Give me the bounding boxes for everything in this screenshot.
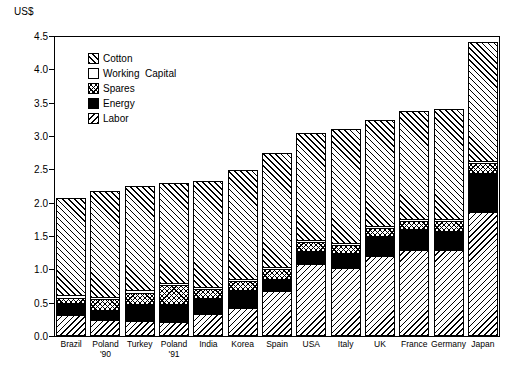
- bar-segment: [399, 111, 429, 219]
- bar-segment: [262, 153, 292, 266]
- y-tick-label: 1.5: [22, 231, 48, 242]
- legend-swatch-working-capital: [88, 68, 99, 79]
- bar-segment: [399, 251, 429, 336]
- bar-segment: [159, 283, 189, 285]
- bar-segment: [90, 321, 120, 336]
- bar-segment: [262, 267, 292, 269]
- bar-segment: [434, 109, 464, 218]
- legend-swatch-cotton: [88, 53, 99, 64]
- bar-segment: [434, 251, 464, 336]
- bar-segment: [159, 285, 189, 304]
- bar-segment: [159, 183, 189, 283]
- bar-segment: [125, 293, 155, 304]
- chart-legend: Cotton Working Capital Spares Energy Lab…: [88, 51, 208, 126]
- bar-segment: [365, 120, 395, 226]
- bar-segment: [125, 186, 155, 290]
- bar-segment: [399, 219, 429, 221]
- bar-segment: [296, 251, 326, 266]
- bar-segment: [296, 265, 326, 336]
- y-tick-label: 0.5: [22, 297, 48, 308]
- y-tick-label: 0.0: [22, 331, 48, 342]
- bar-segment: [125, 290, 155, 293]
- bar-segment: [262, 292, 292, 336]
- bar-segment: [193, 298, 223, 315]
- bar-segment: [159, 304, 189, 323]
- bar-segment: [228, 281, 258, 290]
- legend-label-energy: Energy: [103, 98, 135, 109]
- y-tick-label: 3.0: [22, 131, 48, 142]
- bar-segment: [90, 299, 120, 310]
- legend-label-cotton: Cotton: [103, 53, 132, 64]
- bar-segment: [296, 240, 326, 242]
- bar-segment: [90, 191, 120, 297]
- bar-segment: [228, 170, 258, 279]
- bar-segment: [90, 310, 120, 321]
- bar-segment: [434, 231, 464, 251]
- bar-segment: [90, 297, 120, 299]
- legend-label-labor: Labor: [103, 113, 129, 124]
- bar-segment: [468, 163, 498, 173]
- bar-segment: [193, 315, 223, 336]
- y-tick-label: 4.0: [22, 64, 48, 75]
- bar-segment: [468, 213, 498, 336]
- bar-segment: [228, 309, 258, 336]
- y-tick-label: 2.0: [22, 197, 48, 208]
- bar-segment: [125, 304, 155, 322]
- legend-swatch-labor: [88, 113, 99, 124]
- bar-segment: [434, 219, 464, 221]
- legend-item-labor: Labor: [88, 111, 208, 125]
- y-tick-label: 3.5: [22, 97, 48, 108]
- bar-segment: [331, 253, 361, 270]
- y-tick-label: 1.0: [22, 264, 48, 275]
- bar-segment: [193, 181, 223, 286]
- bar-segment: [56, 295, 86, 298]
- bar-segment: [296, 242, 326, 251]
- bar-segment: [56, 303, 86, 316]
- bar-segment: [193, 289, 223, 298]
- legend-label-working-capital: Working Capital: [103, 68, 176, 79]
- x-tick-label: Japan: [459, 340, 507, 350]
- legend-label-spares: Spares: [103, 83, 135, 94]
- bar-segment: [125, 322, 155, 336]
- bar-segment: [262, 279, 292, 292]
- bar-segment: [331, 129, 361, 242]
- bar-segment: [468, 161, 498, 163]
- bar-segment: [331, 269, 361, 336]
- bar-segment: [365, 236, 395, 257]
- legend-item-working-capital: Working Capital: [88, 66, 208, 80]
- y-tick-label: 2.5: [22, 164, 48, 175]
- legend-item-spares: Spares: [88, 81, 208, 95]
- y-tick-label: 4.5: [22, 31, 48, 42]
- legend-swatch-energy: [88, 98, 99, 109]
- bar-segment: [193, 287, 223, 289]
- bar-segment: [228, 279, 258, 281]
- bar-segment: [399, 221, 429, 228]
- bar-segment: [262, 269, 292, 279]
- bar-segment: [365, 226, 395, 228]
- legend-item-cotton: Cotton: [88, 51, 208, 65]
- bar-segment: [399, 229, 429, 251]
- bar-segment: [468, 42, 498, 161]
- bar-segment: [159, 323, 189, 336]
- bar-segment: [296, 133, 326, 240]
- bar-segment: [331, 245, 361, 253]
- bar-segment: [56, 198, 86, 295]
- bar-segment: [228, 290, 258, 309]
- bar-segment: [365, 257, 395, 336]
- bar-segment: [331, 243, 361, 245]
- bar-segment: [468, 173, 498, 213]
- bar-segment: [434, 221, 464, 231]
- legend-swatch-spares: [88, 83, 99, 94]
- bar-segment: [56, 298, 86, 303]
- stacked-bar-chart: US$ 0.00.51.01.52.02.53.03.54.04.5 Brazi…: [0, 0, 512, 371]
- legend-item-energy: Energy: [88, 96, 208, 110]
- bar-segment: [365, 228, 395, 236]
- bar-segment: [56, 316, 86, 336]
